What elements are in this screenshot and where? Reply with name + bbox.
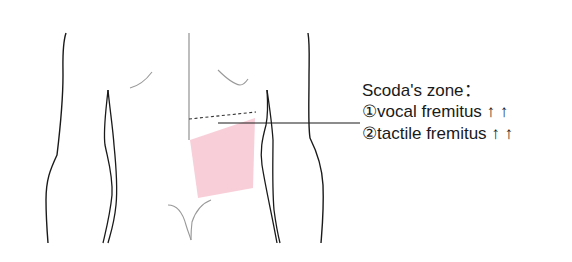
- item-text: vocal fremitus: [377, 102, 482, 121]
- marker-1: ①: [362, 102, 377, 121]
- marker-2: ②: [362, 124, 377, 143]
- right-torso-outline: [308, 33, 323, 243]
- left-torso-outline: [46, 33, 66, 243]
- lung-base-dashed-line: [189, 112, 256, 119]
- up-arrows-icon: ↑ ↑: [487, 102, 509, 121]
- gluteal-cleft-curve-right: [191, 200, 211, 240]
- zone-title: Scoda's zone：: [362, 80, 481, 101]
- scoda-zone-diagram: Scoda's zone： ①vocal fremitus ↑ ↑ ②tacti…: [0, 0, 572, 262]
- right-arm-outline: [261, 90, 277, 243]
- list-item-vocal-fremitus: ①vocal fremitus ↑ ↑: [362, 101, 508, 122]
- left-scapula-curve: [130, 72, 152, 88]
- item-text: tactile fremitus: [377, 124, 487, 143]
- up-arrows-icon: ↑ ↑: [491, 124, 513, 143]
- list-item-tactile-fremitus: ②tactile fremitus ↑ ↑: [362, 123, 513, 144]
- right-arm-inner-outline: [267, 90, 280, 243]
- right-scapula-curve: [218, 70, 248, 85]
- scoda-zone-region: [190, 118, 255, 198]
- gluteal-cleft-curve: [168, 205, 191, 240]
